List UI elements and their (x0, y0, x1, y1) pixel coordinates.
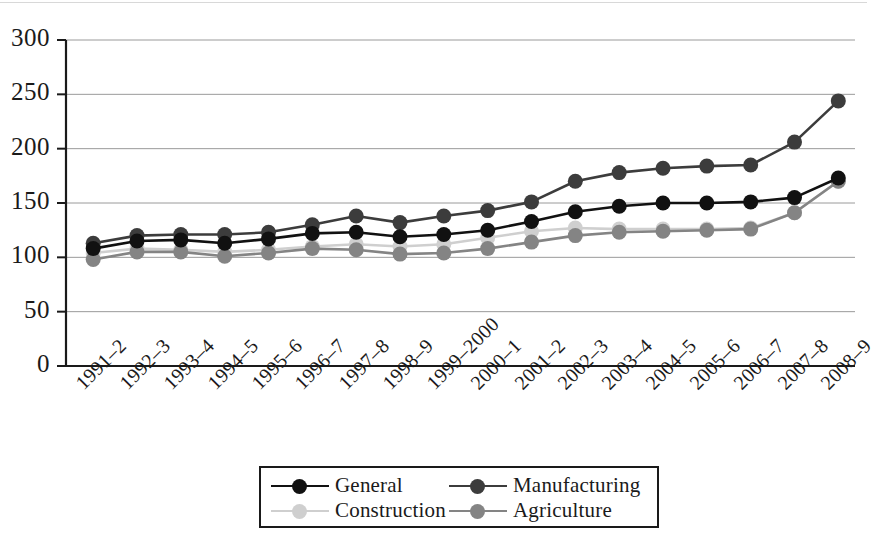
legend-dot-icon (292, 479, 307, 494)
data-point (480, 241, 495, 256)
series-manufacturing (86, 93, 846, 250)
legend-marker-icon (449, 502, 507, 520)
legend-dot-icon (470, 479, 485, 494)
data-point (480, 223, 495, 238)
legend-marker-icon (271, 502, 329, 520)
data-point (436, 227, 451, 242)
data-point (787, 135, 802, 150)
legend-marker-icon (449, 477, 507, 495)
gridlines (66, 40, 855, 312)
data-point (393, 247, 408, 262)
y-axis-tick-label: 200 (0, 133, 50, 161)
legend-label: Manufacturing (513, 473, 640, 498)
data-point (436, 209, 451, 224)
data-point (261, 231, 276, 246)
data-point (743, 158, 758, 173)
data-point (217, 249, 232, 264)
data-point (524, 235, 539, 250)
data-point (217, 236, 232, 251)
legend-label: Agriculture (513, 498, 612, 523)
legend-dot-icon (292, 504, 307, 519)
data-point (349, 209, 364, 224)
y-axis-tick-label: 100 (0, 241, 50, 269)
legend-dot-icon (470, 504, 485, 519)
data-point (787, 205, 802, 220)
data-point (524, 214, 539, 229)
y-axis-tick-label: 0 (0, 350, 50, 378)
legend-entry-agriculture[interactable]: Agriculture (449, 498, 612, 523)
legend-entry-general[interactable]: General (271, 473, 449, 498)
legend-label: Construction (335, 498, 446, 523)
legend-entry-manufacturing[interactable]: Manufacturing (449, 473, 640, 498)
data-point (699, 196, 714, 211)
data-point (656, 161, 671, 176)
data-point (787, 190, 802, 205)
y-axis-tick-label: 50 (0, 296, 50, 324)
data-point (261, 246, 276, 261)
data-point (86, 241, 101, 256)
data-point (568, 174, 583, 189)
legend-entry-construction[interactable]: Construction (271, 498, 449, 523)
data-point (568, 228, 583, 243)
data-point (743, 194, 758, 209)
y-axis-tick-label: 150 (0, 187, 50, 215)
data-point (612, 165, 627, 180)
data-point (305, 241, 320, 256)
data-point (305, 226, 320, 241)
data-point (130, 234, 145, 249)
y-axis-tick-label: 250 (0, 78, 50, 106)
data-point (699, 223, 714, 238)
data-point (480, 203, 495, 218)
series-layer (86, 93, 846, 267)
data-point (656, 196, 671, 211)
data-point (612, 199, 627, 214)
chart-legend: General Manufacturing Construction (259, 466, 659, 528)
legend-row: Construction Agriculture (271, 498, 649, 523)
data-point (831, 171, 846, 186)
data-point (831, 93, 846, 108)
data-point (656, 224, 671, 239)
data-point (612, 225, 627, 240)
series-construction (86, 174, 846, 261)
legend-row: General Manufacturing (271, 473, 649, 498)
series-agriculture (86, 174, 846, 267)
legend-label: General (335, 473, 403, 498)
y-axis-tick-label: 300 (0, 24, 50, 52)
y-tick-marks (57, 40, 66, 366)
data-point (436, 246, 451, 261)
legend-marker-icon (271, 477, 329, 495)
data-point (349, 242, 364, 257)
data-point (568, 204, 583, 219)
data-point (524, 194, 539, 209)
data-point (393, 229, 408, 244)
data-point (743, 222, 758, 237)
data-point (699, 159, 714, 174)
data-point (173, 232, 188, 247)
data-point (393, 215, 408, 230)
data-point (349, 225, 364, 240)
